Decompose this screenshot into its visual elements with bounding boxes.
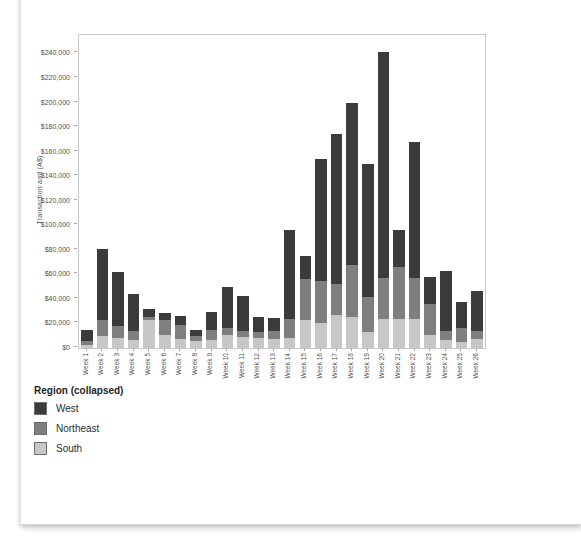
bar-segment-west[interactable]	[222, 287, 234, 329]
bar-segment-northeast[interactable]	[206, 330, 218, 340]
bar-stack	[253, 317, 265, 348]
legend-item-south[interactable]: South	[34, 442, 123, 455]
bar-week-16	[313, 35, 329, 348]
bar-segment-west[interactable]	[112, 272, 124, 326]
x-tick-mark	[367, 348, 368, 351]
bar-stack	[409, 142, 421, 348]
bar-segment-northeast[interactable]	[112, 326, 124, 338]
bar-week-5	[141, 35, 157, 348]
x-axis: Week 1Week 2Week 3Week 4Week 5Week 6Week…	[78, 348, 484, 390]
bar-segment-northeast[interactable]	[268, 331, 280, 338]
bar-segment-west[interactable]	[315, 159, 327, 281]
bar-segment-west[interactable]	[253, 317, 265, 332]
legend-item-west[interactable]: West	[34, 402, 123, 415]
bar-segment-south[interactable]	[190, 341, 202, 348]
bar-segment-northeast[interactable]	[159, 320, 171, 335]
bar-segment-west[interactable]	[206, 312, 218, 330]
bar-segment-south[interactable]	[237, 337, 249, 348]
bar-segment-south[interactable]	[393, 319, 405, 348]
bar-segment-south[interactable]	[284, 338, 296, 348]
bar-segment-west[interactable]	[378, 52, 390, 278]
bar-stack	[346, 103, 358, 348]
legend-swatch-northeast[interactable]	[34, 422, 47, 435]
x-tick-label: Week 7	[176, 353, 183, 375]
bar-segment-west[interactable]	[331, 134, 343, 283]
bar-segment-west[interactable]	[237, 296, 249, 332]
bar-stack	[190, 330, 202, 348]
bar-segment-northeast[interactable]	[409, 278, 421, 319]
bar-segment-northeast[interactable]	[315, 281, 327, 323]
bar-segment-south[interactable]	[424, 335, 436, 348]
bar-segment-south[interactable]	[253, 338, 265, 348]
bar-segment-south[interactable]	[471, 339, 483, 348]
bar-segment-south[interactable]	[206, 340, 218, 348]
bar-segment-northeast[interactable]	[456, 328, 468, 342]
bar-segment-south[interactable]	[409, 319, 421, 348]
bar-segment-northeast[interactable]	[471, 331, 483, 339]
bar-segment-west[interactable]	[143, 309, 155, 317]
bar-week-1	[79, 35, 95, 348]
y-axis: $0$20,000$40,000$60,000$80,000$100,000$1…	[21, 34, 78, 347]
x-tick-mark	[429, 348, 430, 351]
bar-segment-northeast[interactable]	[378, 278, 390, 319]
x-tick-mark	[179, 348, 180, 351]
bar-segment-south[interactable]	[440, 340, 452, 348]
bar-segment-west[interactable]	[409, 142, 421, 278]
bar-segment-west[interactable]	[456, 302, 468, 328]
x-cell: Week 25	[453, 348, 469, 390]
bar-segment-south[interactable]	[315, 323, 327, 348]
y-tick-mark	[74, 272, 77, 273]
bar-segment-northeast[interactable]	[362, 297, 374, 332]
bar-segment-west[interactable]	[175, 316, 187, 325]
bar-segment-south[interactable]	[159, 335, 171, 348]
bar-segment-west[interactable]	[300, 256, 312, 279]
bar-segment-west[interactable]	[128, 294, 140, 331]
bar-week-9	[204, 35, 220, 348]
legend-swatch-south[interactable]	[34, 442, 47, 455]
bar-segment-northeast[interactable]	[300, 279, 312, 320]
bar-segment-northeast[interactable]	[222, 328, 234, 335]
bar-segment-west[interactable]	[284, 230, 296, 319]
bar-segment-northeast[interactable]	[175, 325, 187, 339]
x-cell: Week 1	[78, 348, 94, 390]
bar-segment-south[interactable]	[268, 339, 280, 348]
bar-segment-west[interactable]	[159, 313, 171, 320]
bar-segment-south[interactable]	[112, 338, 124, 348]
bar-segment-south[interactable]	[97, 336, 109, 348]
bar-segment-northeast[interactable]	[440, 331, 452, 340]
x-tick-label: Week 24	[442, 353, 449, 379]
bar-segment-west[interactable]	[346, 103, 358, 265]
bar-segment-south[interactable]	[362, 332, 374, 348]
legend-item-northeast[interactable]: Northeast	[34, 422, 123, 435]
bar-segment-south[interactable]	[300, 320, 312, 348]
bar-segment-south[interactable]	[143, 320, 155, 348]
bar-segment-northeast[interactable]	[424, 304, 436, 335]
y-tick-mark	[74, 297, 77, 298]
bar-segment-west[interactable]	[471, 291, 483, 332]
bar-segment-south[interactable]	[128, 340, 140, 348]
bar-segment-northeast[interactable]	[346, 265, 358, 317]
bar-segment-northeast[interactable]	[331, 284, 343, 316]
bar-segment-west[interactable]	[424, 277, 436, 304]
y-tick-label: $240,000	[41, 49, 70, 56]
x-tick-mark	[195, 348, 196, 351]
bar-stack	[300, 256, 312, 348]
x-tick-mark	[336, 348, 337, 351]
bar-segment-west[interactable]	[81, 330, 93, 342]
bar-segment-south[interactable]	[175, 339, 187, 348]
bar-segment-south[interactable]	[222, 335, 234, 348]
bar-segment-west[interactable]	[97, 249, 109, 320]
bar-segment-west[interactable]	[440, 271, 452, 332]
bar-segment-northeast[interactable]	[128, 331, 140, 340]
bar-segment-northeast[interactable]	[97, 320, 109, 337]
bar-segment-south[interactable]	[331, 315, 343, 348]
bar-segment-west[interactable]	[393, 230, 405, 267]
bar-segment-northeast[interactable]	[393, 267, 405, 319]
bar-segment-northeast[interactable]	[284, 319, 296, 339]
legend-swatch-west[interactable]	[34, 402, 47, 415]
bar-segment-south[interactable]	[346, 317, 358, 348]
bar-segment-west[interactable]	[268, 318, 280, 332]
bar-stack	[97, 249, 109, 348]
bar-segment-west[interactable]	[362, 164, 374, 297]
bar-segment-south[interactable]	[378, 319, 390, 348]
